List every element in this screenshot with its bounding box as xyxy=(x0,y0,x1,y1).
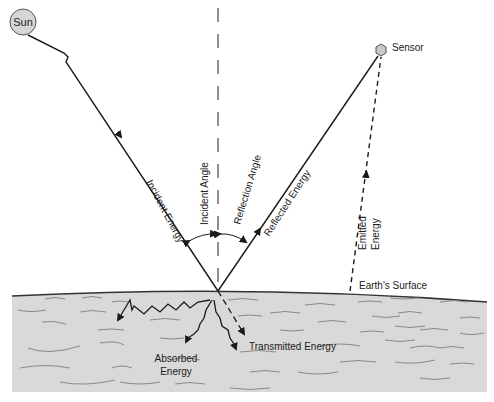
transmitted-energy-label: Transmitted Energy xyxy=(249,341,336,352)
emitted-energy-ray xyxy=(350,57,381,291)
incident-energy-label: Incident Energy xyxy=(144,178,186,245)
reflected-energy-label: Reflected Energy xyxy=(261,168,312,238)
remote-sensing-energy-diagram: Sun Sensor Incident Energy Incident Angl… xyxy=(0,0,494,402)
sensor-label: Sensor xyxy=(392,42,424,53)
reflection-angle-label: Reflection Angle xyxy=(231,153,263,226)
sun-label: Sun xyxy=(13,16,33,28)
sensor-icon: Sensor xyxy=(376,42,424,56)
reflected-energy-ray xyxy=(218,56,378,291)
emitted-energy-label-line1: Emitted xyxy=(357,216,368,250)
absorbed-energy-label-line1: Absorbed xyxy=(155,353,198,364)
absorbed-energy-label-line2: Energy xyxy=(160,366,192,377)
incident-angle-label: Incident Angle xyxy=(199,162,210,225)
emitted-energy-label-line2: Energy xyxy=(370,218,381,250)
earths-surface-label: Earth's Surface xyxy=(359,280,427,291)
angle-arcs xyxy=(189,234,246,242)
incident-energy-ray xyxy=(28,35,218,291)
sun-icon: Sun xyxy=(10,9,36,35)
